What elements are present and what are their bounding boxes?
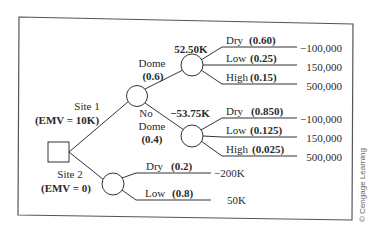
nodome-dry-line	[201, 118, 297, 130]
site2-low-label: Low	[145, 187, 165, 199]
nodome-low-prob: (0.125)	[250, 124, 282, 137]
site1-emv: (EMV = 10K)	[35, 114, 99, 127]
dome-dry-line	[201, 47, 297, 60]
nodome-low-line	[203, 136, 297, 137]
nodome-dry-label: Dry	[226, 105, 244, 117]
site2-low-line	[122, 190, 211, 200]
nodome-dry-payoff: −100,000	[300, 113, 342, 125]
dome-dry-label: Dry	[226, 34, 244, 46]
dome-low-prob: (0.25)	[250, 52, 277, 65]
dome-label: Dome	[139, 57, 166, 69]
nodome-label-line2: Dome	[139, 120, 166, 132]
nodome-high-label: High	[226, 143, 249, 155]
nodome-high-payoff: 500,000	[306, 151, 342, 163]
dome-dry-prob: (0.60)	[249, 34, 276, 47]
site2-dry-prob: (0.2)	[171, 160, 192, 173]
site2-low-payoff: 50K	[227, 194, 246, 206]
chance-node-site1	[127, 86, 148, 107]
decision-tree-diagram: Site 1 (EMV = 10K) Site 2 (EMV = 0) Dome…	[0, 0, 375, 237]
site2-emv: (EMV = 0)	[41, 182, 91, 195]
nodome-high-prob: (0.025)	[252, 143, 284, 156]
nodome-low-label: Low	[226, 124, 246, 136]
dome-high-label: High	[226, 71, 249, 83]
site2-label: Site 2	[57, 168, 82, 180]
nodome-low-payoff: 150,000	[306, 132, 342, 144]
chance-node-site2	[102, 173, 124, 195]
chance-node-nodome	[181, 125, 203, 147]
nodome-label-line1: No	[139, 107, 153, 119]
site1-label: Site 1	[74, 100, 99, 112]
site2-dry-line	[122, 173, 211, 178]
site2-dry-payoff: −200K	[214, 167, 245, 179]
site2-dry-label: Dry	[146, 160, 164, 172]
site2-low-prob: (0.8)	[172, 187, 193, 200]
dome-high-payoff: 500,000	[306, 80, 342, 92]
dome-low-payoff: 150,000	[306, 61, 342, 73]
dome-prob: (0.6)	[142, 70, 163, 83]
nodome-dry-prob: (0.850)	[251, 105, 283, 118]
nodome-prob: (0.4)	[141, 133, 162, 146]
dome-ev: 52.50K	[174, 43, 208, 55]
chance-node-dome	[181, 54, 203, 76]
dome-dry-payoff: −100,000	[300, 42, 342, 54]
decision-node-square	[48, 142, 69, 162]
dome-high-line	[201, 70, 297, 84]
nodome-ev: −53.75K	[170, 107, 210, 119]
dome-low-label: Low	[226, 52, 246, 64]
copyright-credit: © Cengage Learning	[358, 148, 367, 222]
dome-high-prob: (0.15)	[250, 71, 277, 84]
